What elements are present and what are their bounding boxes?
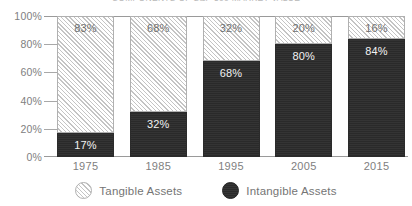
- x-axis-tick-label: 2005: [275, 160, 332, 172]
- plot-area: 83% 17% 68% 32% 32% 68%: [57, 16, 405, 157]
- solid-circle-icon: [222, 182, 239, 199]
- bar-segment-intangible[interactable]: 68%: [203, 61, 260, 157]
- y-axis-tick-label: 60%: [20, 66, 42, 78]
- y-axis-tick-label: 100%: [14, 10, 42, 22]
- x-axis-tick-label: 2015: [348, 160, 405, 172]
- bar-segment-intangible[interactable]: 84%: [348, 39, 405, 157]
- bar-segment-label: 80%: [276, 50, 331, 62]
- bar-1995[interactable]: 32% 68%: [203, 16, 260, 157]
- bar-segment-label: 17%: [58, 139, 113, 151]
- bar-2005[interactable]: 20% 80%: [275, 16, 332, 157]
- bar-segment-label: 20%: [276, 22, 331, 34]
- bar-segment-tangible[interactable]: 20%: [275, 16, 332, 44]
- y-axis-tick-label: 0%: [26, 151, 42, 163]
- bar-segment-label: 84%: [349, 45, 404, 57]
- y-axis-tick-label: 20%: [20, 123, 42, 135]
- x-axis-tick-label: 1995: [203, 160, 260, 172]
- legend-item-intangible[interactable]: Intangible Assets: [222, 182, 336, 199]
- bar-segment-label: 68%: [204, 67, 259, 79]
- chart-title: COMPONENTS OF S&P 500 MARKET VALUE: [0, 0, 412, 2]
- bar-segment-label: 83%: [58, 22, 113, 34]
- hatched-circle-icon: [75, 182, 92, 199]
- bar-1975[interactable]: 83% 17%: [57, 16, 114, 157]
- bar-2015[interactable]: 16% 84%: [348, 16, 405, 157]
- stacked-bar-chart: COMPONENTS OF S&P 500 MARKET VALUE 100% …: [0, 0, 412, 206]
- y-axis-tick-label: 80%: [20, 38, 42, 50]
- legend-item-tangible[interactable]: Tangible Assets: [75, 182, 182, 199]
- bar-segment-intangible[interactable]: 32%: [130, 112, 187, 157]
- legend-label: Intangible Assets: [246, 185, 336, 197]
- y-axis-labels: 100% 80% 60% 40% 20% 0%: [0, 16, 42, 157]
- y-axis-tick-label: 40%: [20, 95, 42, 107]
- bar-group: 83% 17% 68% 32% 32% 68%: [57, 16, 405, 157]
- bar-segment-label: 32%: [131, 118, 186, 130]
- x-axis-tick-label: 1985: [130, 160, 187, 172]
- chart-legend: Tangible Assets Intangible Assets: [0, 182, 412, 199]
- bar-segment-label: 16%: [349, 22, 404, 34]
- x-axis-labels: 1975 1985 1995 2005 2015: [57, 160, 405, 172]
- legend-label: Tangible Assets: [99, 185, 182, 197]
- bar-segment-tangible[interactable]: 68%: [130, 16, 187, 112]
- bar-segment-intangible[interactable]: 17%: [57, 133, 114, 157]
- bar-segment-label: 68%: [131, 22, 186, 34]
- bar-segment-label: 32%: [204, 22, 259, 34]
- bar-1985[interactable]: 68% 32%: [130, 16, 187, 157]
- x-axis-tick-label: 1975: [57, 160, 114, 172]
- bar-segment-tangible[interactable]: 83%: [57, 16, 114, 133]
- bar-segment-intangible[interactable]: 80%: [275, 44, 332, 157]
- bar-segment-tangible[interactable]: 16%: [348, 16, 405, 39]
- bar-segment-tangible[interactable]: 32%: [203, 16, 260, 61]
